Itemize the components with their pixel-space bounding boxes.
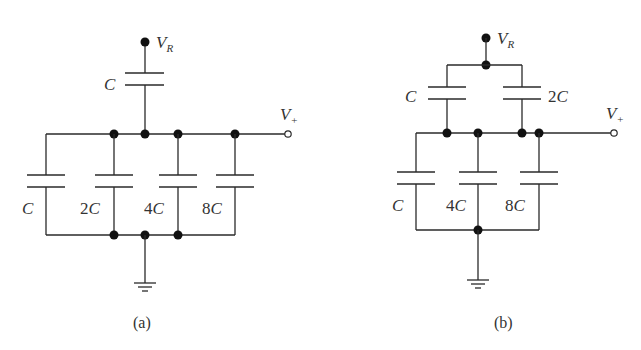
capacitor-C-b: C [392, 133, 435, 230]
vplus-terminal-a [285, 131, 291, 137]
vr-label-b: VR [497, 29, 514, 50]
capacitor-8C-a: 8C [202, 134, 254, 235]
svg-text:C: C [104, 75, 116, 94]
capacitor-top-a: C [104, 73, 164, 94]
svg-text:8C: 8C [202, 199, 223, 218]
capacitor-2C-a: 2C [80, 134, 133, 235]
ground-icon-a [134, 235, 156, 291]
circuit-a: VR C V+ C 2C [22, 33, 298, 332]
capacitor-C-a: C [22, 134, 65, 235]
svg-text:4C: 4C [144, 199, 165, 218]
vr-label-a: VR [156, 33, 173, 54]
svg-text:C: C [392, 196, 404, 215]
capacitor-top-C-b: C [405, 87, 466, 133]
capacitor-circuit-diagrams: VR C V+ C 2C [0, 0, 641, 350]
capacitor-8C-b: 8C [505, 133, 558, 230]
capacitor-4C-b: 4C [446, 133, 497, 230]
vr-node-a [141, 38, 150, 47]
vplus-terminal-b [611, 130, 617, 136]
svg-text:2C: 2C [548, 87, 569, 106]
svg-text:8C: 8C [505, 196, 526, 215]
circuit-b: VR C 2C V+ C [392, 29, 624, 332]
svg-text:2C: 2C [80, 199, 101, 218]
ground-icon-b [467, 230, 489, 288]
svg-text:4C: 4C [446, 196, 467, 215]
capacitor-4C-a: 4C [144, 134, 197, 235]
vplus-label-a: V+ [280, 105, 298, 126]
caption-a: (a) [133, 314, 151, 332]
caption-b: (b) [494, 314, 513, 332]
svg-text:C: C [22, 199, 34, 218]
svg-text:C: C [405, 87, 417, 106]
vplus-label-b: V+ [606, 104, 624, 125]
capacitor-top-2C-b: 2C [503, 87, 569, 133]
